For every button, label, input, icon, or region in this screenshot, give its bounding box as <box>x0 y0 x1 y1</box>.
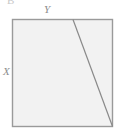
width-label-y: Y <box>44 4 50 15</box>
geometry-figure: B Y X <box>0 0 121 134</box>
height-label-x: X <box>3 66 10 77</box>
outer-rectangle-shape <box>13 20 113 127</box>
diagram-canvas <box>0 0 121 134</box>
